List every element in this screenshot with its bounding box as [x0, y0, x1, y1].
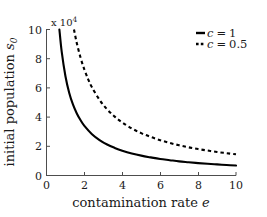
y-tick-label: 8: [35, 53, 42, 66]
svg-text:initial population s0: initial population s0: [2, 37, 19, 166]
y-tick-label: 4: [35, 111, 42, 124]
y-axis-title: initial population s0: [2, 37, 19, 166]
x-tick-label: 2: [81, 179, 88, 192]
y-tick-label: 6: [35, 82, 42, 95]
chart-canvas: 0 2 4 6 8 10 0 2 4 6 8 10 x 104 contamin…: [0, 0, 267, 217]
x-tick-label: 6: [157, 179, 164, 192]
x-axis-title-text: contamination rate: [72, 195, 202, 210]
x-tick-label: 8: [195, 179, 202, 192]
y-tick-label: 10: [28, 24, 42, 37]
x-axis-title-var: e: [202, 195, 210, 210]
y-tick-label: 2: [35, 140, 42, 153]
x-tick-label: 4: [119, 179, 126, 192]
multiplier-exponent: 4: [73, 15, 78, 24]
y-tick-label: 0: [35, 170, 42, 183]
multiplier-base: x 10: [51, 17, 73, 28]
chart-figure: 0 2 4 6 8 10 0 2 4 6 8 10 x 104 contamin…: [0, 0, 267, 217]
x-tick-label: 10: [229, 179, 243, 192]
y-axis-title-sub: 0: [9, 37, 19, 43]
x-axis-title: contamination rate e: [72, 195, 210, 210]
svg-text:contamination rate e: contamination rate e: [72, 195, 210, 210]
y-axis-title-text: initial population: [2, 50, 17, 167]
x-tick-label: 0: [43, 179, 50, 192]
